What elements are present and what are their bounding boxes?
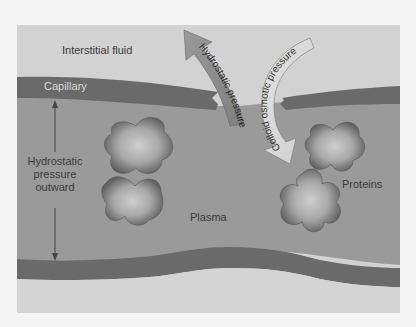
capillary-label: Capillary: [44, 80, 87, 92]
hydrostatic-outward-line2: pressure: [23, 168, 87, 181]
protein-blob-2: [102, 177, 163, 225]
capillary-pressure-diagram: Hydrostatic pressure Colloid osmotic pre…: [0, 0, 416, 327]
hydrostatic-outward-line3: outward: [23, 181, 87, 194]
hydrostatic-pressure-outward-label: Hydrostatic pressure outward: [23, 155, 87, 194]
plasma-label: Plasma: [190, 211, 227, 223]
proteins-label: Proteins: [342, 178, 382, 190]
hydrostatic-outward-line1: Hydrostatic: [23, 155, 87, 168]
interstitial-fluid-label: Interstitial fluid: [62, 44, 132, 56]
